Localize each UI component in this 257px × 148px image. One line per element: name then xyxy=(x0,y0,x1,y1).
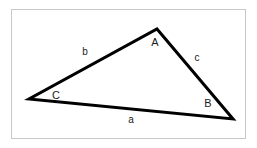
side-label-b: b xyxy=(82,47,88,57)
vertex-label-a: A xyxy=(151,37,158,48)
triangle-figure xyxy=(0,0,257,148)
vertex-label-b: B xyxy=(204,98,211,109)
side-label-a: a xyxy=(128,115,134,125)
side-label-c: c xyxy=(195,53,200,63)
diagram-canvas: A B C a b c xyxy=(0,0,257,148)
triangle-outline xyxy=(29,29,233,119)
vertex-label-c: C xyxy=(52,90,60,101)
